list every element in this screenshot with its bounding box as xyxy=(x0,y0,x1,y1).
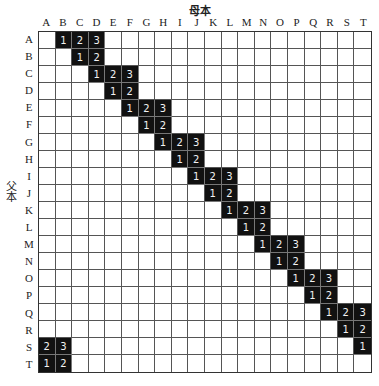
grid-cell xyxy=(288,168,305,185)
grid-cell xyxy=(271,134,288,151)
row-label: E xyxy=(22,99,36,116)
grid-cell xyxy=(188,32,205,49)
grid-cell xyxy=(56,236,73,253)
grid-cell xyxy=(222,151,239,168)
grid-cell xyxy=(222,219,239,236)
grid-cell xyxy=(288,304,305,321)
grid-cell xyxy=(72,304,89,321)
grid-cell xyxy=(56,185,73,202)
grid-cell xyxy=(139,253,156,270)
grid-cell xyxy=(338,338,355,355)
grid-cell xyxy=(39,253,56,270)
grid-cell xyxy=(56,66,73,83)
grid-cell xyxy=(155,270,172,287)
column-label: B xyxy=(55,15,72,29)
grid-cell xyxy=(205,355,222,372)
column-label: T xyxy=(355,15,372,29)
grid-cell xyxy=(238,168,255,185)
column-label: N xyxy=(255,15,272,29)
grid-cell xyxy=(155,32,172,49)
grid-cell xyxy=(105,202,122,219)
grid-cell xyxy=(172,253,189,270)
filled-cell: 2 xyxy=(188,151,205,168)
grid-cell xyxy=(39,219,56,236)
grid-cell xyxy=(271,321,288,338)
grid-cell xyxy=(238,100,255,117)
grid-cell xyxy=(338,66,355,83)
grid-cell xyxy=(139,236,156,253)
grid-cell xyxy=(188,253,205,270)
row-labels: ABCDEFGHIJKLMNOPQRST xyxy=(22,31,36,373)
grid-cell xyxy=(205,32,222,49)
grid-cell xyxy=(72,66,89,83)
grid-cell xyxy=(89,270,106,287)
grid-cell xyxy=(305,355,322,372)
grid-cell xyxy=(172,270,189,287)
grid-cell xyxy=(271,270,288,287)
row-label: L xyxy=(22,219,36,236)
grid-cell xyxy=(255,355,272,372)
crossing-matrix-grid: 1231212312123121231212312123121231212312… xyxy=(38,31,372,373)
grid-cell xyxy=(271,287,288,304)
grid-cell xyxy=(105,32,122,49)
grid-cell xyxy=(238,321,255,338)
grid-cell xyxy=(89,321,106,338)
filled-cell: 1 xyxy=(288,270,305,287)
grid-cell xyxy=(105,304,122,321)
filled-cell: 2 xyxy=(72,32,89,49)
grid-cell xyxy=(139,49,156,66)
grid-cell xyxy=(305,100,322,117)
grid-cell xyxy=(271,66,288,83)
grid-cell xyxy=(321,338,338,355)
filled-cell: 2 xyxy=(238,202,255,219)
row-label: G xyxy=(22,134,36,151)
filled-cell: 1 xyxy=(172,151,189,168)
grid-cell xyxy=(271,83,288,100)
grid-cell xyxy=(288,151,305,168)
grid-cell xyxy=(56,219,73,236)
grid-cell xyxy=(155,168,172,185)
filled-cell: 2 xyxy=(122,83,139,100)
row-label: P xyxy=(22,287,36,304)
grid-cell xyxy=(338,151,355,168)
grid-cell xyxy=(222,117,239,134)
grid-cell xyxy=(354,202,371,219)
grid-cell xyxy=(155,83,172,100)
grid-cell xyxy=(89,185,106,202)
filled-cell: 1 xyxy=(155,134,172,151)
grid-cell xyxy=(288,83,305,100)
filled-cell: 1 xyxy=(56,32,73,49)
column-label: M xyxy=(238,15,255,29)
grid-cell xyxy=(89,202,106,219)
row-label: S xyxy=(22,339,36,356)
grid-cell xyxy=(39,270,56,287)
column-label: L xyxy=(222,15,239,29)
grid-cell xyxy=(271,151,288,168)
grid-cell xyxy=(89,236,106,253)
grid-cell xyxy=(188,236,205,253)
grid-cell xyxy=(288,355,305,372)
grid-cell xyxy=(205,134,222,151)
grid-cell xyxy=(122,270,139,287)
row-label: M xyxy=(22,236,36,253)
grid-cell xyxy=(105,49,122,66)
grid-cell xyxy=(222,338,239,355)
grid-cell xyxy=(338,270,355,287)
grid-cell xyxy=(321,117,338,134)
column-label: G xyxy=(138,15,155,29)
grid-cell xyxy=(172,100,189,117)
grid-cell xyxy=(321,185,338,202)
grid-cell xyxy=(255,134,272,151)
grid-cell xyxy=(255,304,272,321)
grid-cell xyxy=(155,287,172,304)
grid-cell xyxy=(255,270,272,287)
grid-cell xyxy=(56,117,73,134)
grid-cell xyxy=(155,304,172,321)
grid-cell xyxy=(288,202,305,219)
grid-cell xyxy=(39,134,56,151)
grid-cell xyxy=(172,185,189,202)
grid-cell xyxy=(271,338,288,355)
grid-cell xyxy=(72,338,89,355)
filled-cell: 1 xyxy=(205,185,222,202)
grid-cell xyxy=(39,202,56,219)
